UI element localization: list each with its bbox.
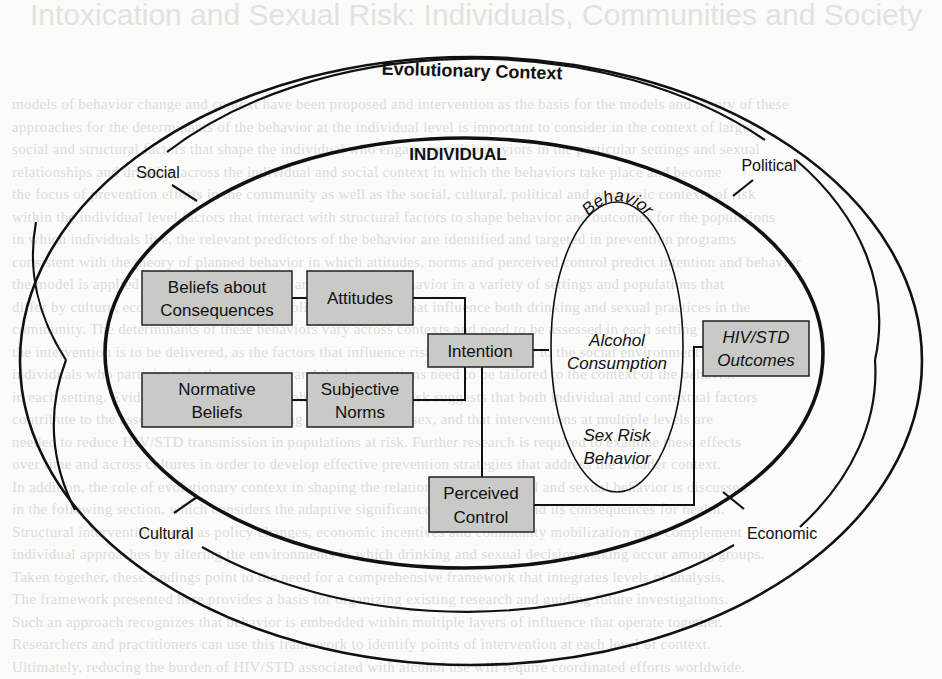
hiv-std-outcomes-box: HIV/STD Outcomes xyxy=(703,321,809,376)
economic-label: Economic xyxy=(747,525,817,542)
individual-label: INDIVIDUAL xyxy=(409,145,506,164)
intention-box: Intention xyxy=(428,334,533,367)
alcohol-consumption-line1: Alcohol xyxy=(588,331,646,350)
cultural-label: Cultural xyxy=(138,525,193,542)
subjective-norms-box: Subjective Norms xyxy=(307,373,413,427)
beliefs-about-consequences-box: Beliefs about Consequences xyxy=(142,271,292,325)
normative-beliefs-box: Normative Beliefs xyxy=(142,373,292,427)
social-label: Social xyxy=(136,164,180,181)
sex-risk-behavior-line1: Sex Risk xyxy=(583,426,652,445)
svg-text:Beliefs about: Beliefs about xyxy=(168,278,267,297)
svg-text:Norms: Norms xyxy=(335,403,385,422)
context-model-diagram: Evolutionary Context INDIVIDUAL Social P… xyxy=(0,0,942,679)
svg-text:Attitudes: Attitudes xyxy=(327,289,393,308)
svg-text:Beliefs: Beliefs xyxy=(191,403,242,422)
svg-text:Subjective: Subjective xyxy=(321,380,399,399)
svg-text:Intention: Intention xyxy=(447,342,512,361)
svg-text:HIV/STD: HIV/STD xyxy=(722,328,789,347)
behavior-label: Behavior xyxy=(578,186,658,220)
svg-text:Outcomes: Outcomes xyxy=(717,351,795,370)
svg-text:Perceived: Perceived xyxy=(443,484,519,503)
svg-text:Normative: Normative xyxy=(178,380,255,399)
attitudes-box: Attitudes xyxy=(307,271,413,325)
perceived-control-box: Perceived Control xyxy=(429,477,534,532)
political-label: Political xyxy=(741,157,796,174)
svg-text:Control: Control xyxy=(454,508,509,527)
sex-risk-behavior-line2: Behavior xyxy=(583,449,651,468)
svg-text:Consequences: Consequences xyxy=(160,301,273,320)
alcohol-consumption-line2: Consumption xyxy=(567,354,667,373)
evolutionary-context-title: Evolutionary Context xyxy=(381,59,562,84)
